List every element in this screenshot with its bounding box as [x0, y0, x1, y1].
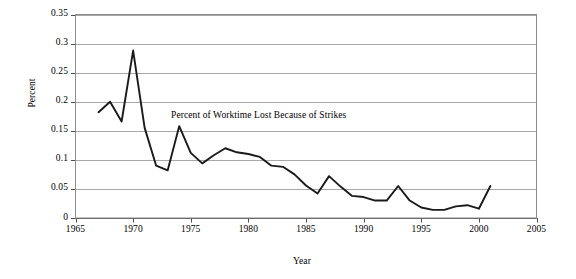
y-tick-label: 0.35: [22, 8, 68, 18]
strikes-worktime-line-chart: Percent Year Percent of Worktime Lost Be…: [0, 0, 576, 279]
x-axis-title: Year: [0, 256, 576, 266]
data-series-line: [99, 51, 491, 210]
x-tick-label: 1970: [111, 224, 155, 234]
gridlines-group: [76, 16, 537, 190]
x-tick-label: 2005: [515, 224, 559, 234]
x-tick-label: 1965: [54, 224, 98, 234]
x-tick-label: 1995: [399, 224, 443, 234]
y-tick-label: 0.05: [22, 182, 68, 192]
x-tick-label: 1975: [169, 224, 213, 234]
x-tick-label: 1985: [284, 224, 328, 234]
x-tick-label: 1990: [342, 224, 386, 234]
y-tick-label: 0.15: [22, 124, 68, 134]
x-axis-title-text: Year: [293, 256, 311, 266]
y-tick-label: 0.3: [22, 37, 68, 47]
x-tick-label: 2000: [457, 224, 501, 234]
y-tick-label: 0.1: [22, 153, 68, 163]
y-tick-label: 0: [22, 212, 68, 222]
y-tick-label: 0.2: [22, 95, 68, 105]
plot-canvas: [0, 0, 576, 279]
x-tick-label: 1980: [226, 224, 270, 234]
x-tick-marks-group: [76, 218, 538, 223]
y-tick-marks-group: [71, 16, 76, 219]
plot-annotation: Percent of Worktime Lost Because of Stri…: [171, 110, 346, 120]
y-tick-label: 0.25: [22, 66, 68, 76]
